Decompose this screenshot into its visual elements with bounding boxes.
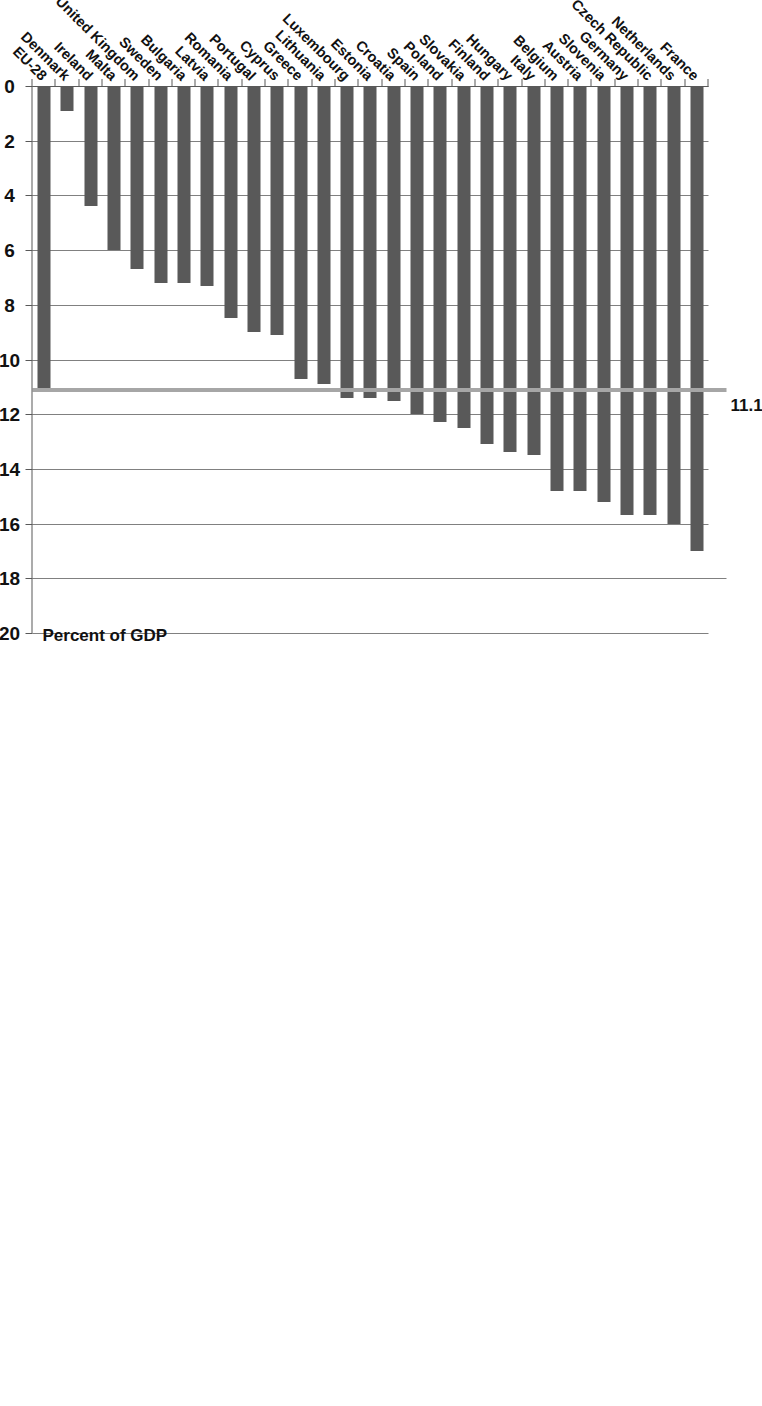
bar [667,86,680,524]
bar [503,86,516,452]
value-tick-label: 8 [0,295,29,317]
category-tick [311,79,312,86]
axis-title: Percent of GDP [42,626,167,646]
bar [177,86,190,283]
category-tick [521,79,522,86]
value-tick-label: 2 [0,131,29,153]
category-tick [264,79,265,86]
category-tick [194,79,195,86]
value-tick-label: 20 [0,623,29,645]
category-tick [614,79,615,86]
category-tick [241,79,242,86]
bar [433,86,446,422]
category-tick [590,79,591,86]
reference-line [32,388,726,392]
category-tick [427,79,428,86]
value-tick-label: 16 [0,514,29,536]
category-tick [171,79,172,86]
bar [387,86,400,401]
category-tick [124,79,125,86]
category-tick [54,79,55,86]
bar [690,86,703,551]
bar [317,86,330,384]
bar [200,86,213,286]
category-tick [474,79,475,86]
axis-title-rule [32,578,726,579]
category-tick [381,79,382,86]
value-tick-label: 18 [0,568,29,590]
bar [37,86,50,390]
category-tick [31,79,32,86]
value-tick-label: 10 [0,350,29,372]
category-tick [451,79,452,86]
bar [84,86,97,206]
category-tick [357,79,358,86]
category-tick [707,79,708,86]
bar [60,86,73,111]
category-tick [660,79,661,86]
bar [573,86,586,491]
bar [550,86,563,491]
bar [527,86,540,455]
category-tick [544,79,545,86]
category-tick [497,79,498,86]
category-tick [287,79,288,86]
reference-line-label: 11.1 [730,396,762,416]
category-tick [404,79,405,86]
bar [597,86,610,502]
bar [247,86,260,332]
bar [340,86,353,398]
bar [130,86,143,269]
value-tick-label: 6 [0,240,29,262]
category-tick [148,79,149,86]
bar [620,86,633,515]
bar [107,86,120,250]
bar [364,86,377,398]
bar [410,86,423,414]
bar [643,86,656,515]
bar [270,86,283,335]
bar [154,86,167,283]
bar [457,86,470,428]
bar [224,86,237,318]
value-tick-label: 12 [0,404,29,426]
bar [294,86,307,379]
value-tick-label: 0 [0,76,29,98]
value-tick-label: 14 [0,459,29,481]
plot-area [32,86,708,633]
category-tick [637,79,638,86]
category-axis-line [32,86,708,87]
value-tick-label: 4 [0,185,29,207]
category-tick [217,79,218,86]
category-tick [567,79,568,86]
category-tick [101,79,102,86]
category-tick [334,79,335,86]
category-tick [684,79,685,86]
category-tick [78,79,79,86]
